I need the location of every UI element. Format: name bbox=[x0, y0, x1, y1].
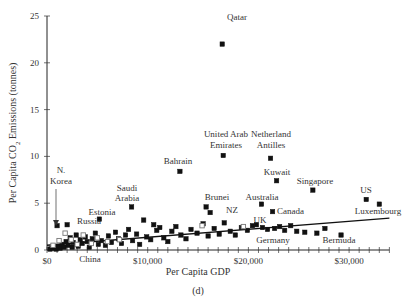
chart-svg: $0$10,000$20,000$30,0000510152025 QatarU… bbox=[0, 0, 417, 300]
data-point bbox=[129, 205, 133, 209]
data-point bbox=[57, 238, 61, 242]
data-point bbox=[130, 238, 134, 242]
figure-caption: (d) bbox=[192, 285, 204, 297]
point-label: Emirates bbox=[210, 140, 242, 150]
point-label: Antilles bbox=[257, 140, 286, 150]
data-point bbox=[274, 179, 278, 183]
data-point bbox=[81, 233, 85, 237]
data-point bbox=[170, 229, 174, 233]
data-point bbox=[270, 209, 274, 213]
point-label: Korea bbox=[50, 176, 72, 186]
point-label: Saudi bbox=[117, 183, 138, 193]
data-point bbox=[260, 225, 264, 229]
data-point bbox=[80, 241, 84, 245]
data-point bbox=[117, 238, 121, 242]
data-point bbox=[200, 223, 204, 227]
point-label: Netherland bbox=[251, 129, 291, 139]
data-point bbox=[126, 227, 130, 231]
x-axis-label: Per Capita GDP bbox=[166, 266, 231, 277]
data-point bbox=[74, 233, 78, 237]
data-point bbox=[222, 221, 226, 225]
y-tick-label: 10 bbox=[30, 151, 40, 161]
point-label: Qatar bbox=[227, 12, 247, 22]
data-point bbox=[70, 245, 74, 249]
data-point bbox=[315, 231, 319, 235]
data-point bbox=[179, 233, 183, 237]
y-tick-label: 20 bbox=[30, 58, 40, 68]
point-label: Australia bbox=[246, 192, 279, 202]
point-labels: QatarUnited ArabEmiratesNetherlandAntill… bbox=[50, 12, 402, 264]
data-point bbox=[62, 245, 66, 249]
data-point bbox=[259, 202, 263, 206]
data-point bbox=[184, 237, 188, 241]
point-label: Bahrain bbox=[164, 156, 193, 166]
data-point bbox=[268, 156, 272, 160]
data-point bbox=[149, 238, 153, 242]
y-tick-label: 25 bbox=[30, 11, 40, 21]
y-tick-label: 5 bbox=[35, 198, 40, 208]
data-point bbox=[208, 210, 212, 214]
data-point bbox=[123, 233, 127, 237]
data-point bbox=[113, 230, 117, 234]
data-point bbox=[220, 42, 224, 46]
data-point bbox=[95, 236, 99, 240]
data-point bbox=[178, 169, 182, 173]
x-tick-label: $20,000 bbox=[234, 256, 264, 266]
data-point bbox=[206, 234, 210, 238]
point-label: Arabia bbox=[115, 193, 140, 203]
data-point bbox=[195, 231, 199, 235]
data-point bbox=[158, 225, 162, 229]
data-point bbox=[144, 235, 148, 239]
data-point bbox=[65, 223, 69, 227]
data-point bbox=[75, 242, 79, 246]
point-label: China bbox=[79, 254, 101, 264]
point-label: UK bbox=[254, 215, 267, 225]
data-point bbox=[303, 230, 307, 234]
data-point bbox=[217, 232, 221, 236]
point-label: United Arab bbox=[204, 129, 249, 139]
data-point bbox=[288, 223, 292, 227]
data-point bbox=[63, 231, 67, 235]
point-label: Bermuda bbox=[323, 235, 356, 245]
point-label: Kuwait bbox=[264, 167, 291, 177]
data-point bbox=[89, 241, 93, 245]
scatter-chart: $0$10,000$20,000$30,0000510152025 QatarU… bbox=[0, 0, 417, 300]
point-label: Luxembourg bbox=[355, 206, 402, 216]
data-point bbox=[152, 223, 156, 227]
data-point bbox=[272, 226, 276, 230]
data-point bbox=[311, 188, 315, 192]
data-point bbox=[66, 243, 70, 247]
point-label: NZ bbox=[226, 205, 238, 215]
data-point bbox=[137, 242, 141, 246]
data-point bbox=[134, 232, 138, 236]
data-point bbox=[90, 237, 94, 241]
x-tick-label: $0 bbox=[43, 256, 53, 266]
data-point bbox=[204, 205, 208, 209]
x-tick-label: $10,000 bbox=[133, 256, 163, 266]
data-point bbox=[221, 153, 225, 157]
data-point bbox=[93, 231, 97, 235]
data-point bbox=[106, 234, 110, 238]
x-tick-label: $30,000 bbox=[334, 256, 364, 266]
data-point bbox=[295, 229, 299, 233]
data-point bbox=[189, 227, 193, 231]
data-point bbox=[241, 224, 245, 228]
data-point bbox=[162, 236, 166, 240]
data-point bbox=[166, 239, 170, 243]
point-label: Canada bbox=[277, 206, 304, 216]
data-point bbox=[277, 224, 281, 228]
point-label: N. bbox=[57, 165, 66, 175]
point-label: Brunei bbox=[205, 192, 230, 202]
data-point bbox=[233, 233, 237, 237]
data-point bbox=[212, 226, 216, 230]
y-tick-label: 0 bbox=[35, 245, 40, 255]
data-point bbox=[51, 243, 55, 247]
data-point bbox=[228, 229, 232, 233]
data-point bbox=[141, 218, 145, 222]
y-axis-label: Per Capita CO2 Emissions (tonnes) bbox=[7, 63, 22, 204]
data-point bbox=[265, 227, 269, 231]
data-point bbox=[69, 238, 73, 242]
point-label: US bbox=[360, 185, 372, 195]
data-point bbox=[105, 239, 109, 243]
y-tick-label: 15 bbox=[30, 105, 40, 115]
